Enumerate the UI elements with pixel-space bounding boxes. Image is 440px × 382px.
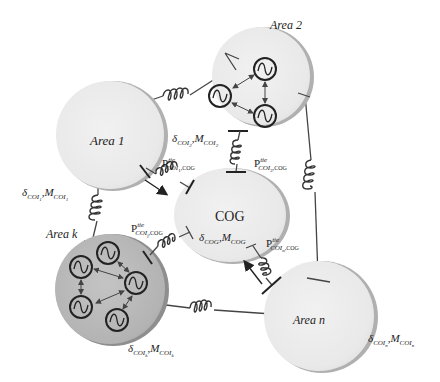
area-1-label: Area 1	[89, 133, 125, 148]
area-k-node: Area k	[45, 227, 169, 346]
svg-text:δCOI1,MCOI1: δCOI1,MCOI1	[22, 186, 68, 202]
area-k-label: Area k	[45, 227, 78, 241]
svg-text:δCOIk,MCOIk: δCOIk,MCOIk	[128, 342, 174, 358]
tie-flow-label-area1: PtieCOI1,COG	[162, 156, 196, 173]
area-2-params: δCOI2,MCOI2	[172, 132, 219, 148]
cog-label: COG	[215, 209, 245, 224]
link-areak-arean	[150, 296, 273, 324]
tie-flow-label-area2: PtieCOI2,COG	[254, 156, 288, 173]
svg-text:PtieCOI2,COG: PtieCOI2,COG	[254, 156, 288, 173]
svg-text:PtieCOIj,COG: PtieCOIj,COG	[131, 221, 163, 238]
area-n-label: Area n	[292, 313, 325, 327]
tie-flow-label-areak: PtieCOIj,COG	[131, 221, 163, 238]
area-2-node: Area 2	[209, 18, 314, 127]
coi-network-diagram: Area 1 Area 2 Area k Area n	[0, 0, 440, 382]
svg-text:PtieCOI1,COG: PtieCOI1,COG	[162, 156, 196, 173]
area-1-params: δCOI1,MCOI1	[22, 186, 68, 202]
svg-text:δCOI2,MCOI2: δCOI2,MCOI2	[172, 132, 219, 148]
area-1-node: Area 1	[56, 81, 168, 191]
tie-line-area2-cog	[226, 131, 248, 172]
area-k-params: δCOIk,MCOIk	[128, 342, 174, 358]
link-area2-arean	[296, 93, 330, 281]
area-2-label: Area 2	[269, 18, 302, 32]
